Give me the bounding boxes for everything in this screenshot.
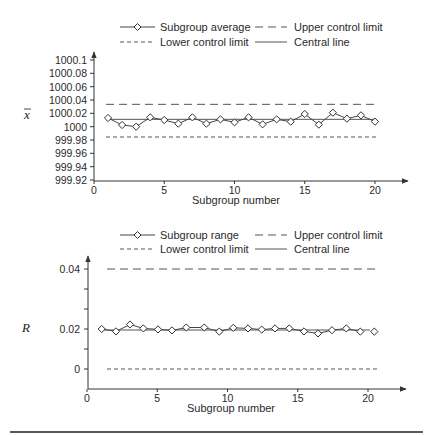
legend-label: Subgroup range [160,229,239,241]
data-point-marker [161,116,168,123]
y-tick-label: 999.94 [55,161,87,173]
data-point-marker [126,321,133,328]
xbar-y-label: x [23,107,31,122]
x-tick-label: 0 [91,184,97,196]
range-plot-area [98,269,378,369]
data-point-marker [175,120,182,127]
data-point-marker [245,114,252,121]
data-point-marker [258,326,265,333]
data-point-marker [273,116,280,123]
xbar-chart: Subgroup average Upper control limit Low… [23,21,408,206]
xbar-plot-area [104,104,379,137]
y-tick-label: 1000.02 [49,107,87,119]
y-tick-label: 0.02 [60,323,81,335]
legend-label: Lower control limit [160,243,249,255]
legend-item-subgroup-range: Subgroup range [120,229,239,241]
y-tick-label: 999.96 [55,147,87,159]
range-y-label: R [21,320,30,335]
y-tick-label: 1000.04 [49,94,87,106]
data-point-marker [168,327,175,334]
data-point-marker [133,123,140,130]
data-point-marker [189,114,196,121]
legend-item-central-line: Central line [255,243,350,255]
x-tick-label: 20 [369,184,381,196]
y-tick-label: 999.98 [55,134,87,146]
legend-label: Upper control limit [294,21,383,33]
data-point-marker [119,121,126,128]
x-tick-label: 20 [362,392,374,404]
legend-label: Upper control limit [294,229,383,241]
x-tick-label: 5 [154,392,160,404]
y-tick-label: 1000.1 [55,54,87,66]
x-tick-label: 15 [299,184,311,196]
y-tick-label: 1000.08 [49,67,87,79]
y-tick-label: 1000.06 [49,81,87,93]
diamond-marker-icon [134,24,141,31]
legend-item-lcl: Lower control limit [120,243,249,255]
legend-label: Subgroup average [160,21,251,33]
legend-item-ucl: Upper control limit [255,21,383,33]
x-tick-label: 15 [292,392,304,404]
x-tick-label: 5 [161,184,167,196]
data-point-marker [147,114,154,121]
data-point-marker [203,120,210,127]
data-point-marker [216,328,223,335]
data-point-marker [357,328,364,335]
legend-label: Central line [294,243,350,255]
x-tick-label: 0 [84,392,90,404]
data-point-marker [98,325,105,332]
data-point-marker [140,325,147,332]
legend-label: Central line [294,36,350,48]
y-tick-label: 1000 [64,121,88,133]
data-point-marker [286,325,293,332]
data-point-marker [154,326,161,333]
y-tick-label: 0 [74,363,80,375]
data-point-marker [357,112,364,119]
data-point-marker [104,114,111,121]
range-y-ticks: 0.040.020 [60,263,88,375]
y-tick-label: 999.92 [55,174,87,186]
range-legend: Subgroup range Upper control limit Lower… [120,229,383,255]
xbar-legend: Subgroup average Upper control limit Low… [120,21,383,48]
legend-item-central-line: Central line [255,36,350,48]
xbar-y-ticks: 1000.11000.081000.061000.041000.02100099… [49,54,94,186]
range-chart: Subgroup range Upper control limit Lower… [21,229,406,414]
xbar-x-axis-title: Subgroup number [192,194,280,206]
legend-item-lcl: Lower control limit [120,36,249,48]
diamond-marker-icon [134,232,141,239]
legend-item-ucl: Upper control limit [255,229,383,241]
legend-item-subgroup-average: Subgroup average [120,21,251,33]
data-point-marker [244,325,251,332]
data-point-marker [112,328,119,335]
data-point-marker [328,327,335,334]
data-point-marker [300,328,307,335]
data-point-marker [271,325,278,332]
data-point-marker [371,328,378,335]
y-tick-label: 0.04 [60,263,81,275]
svg-text:x: x [23,107,30,122]
legend-label: Lower control limit [160,36,249,48]
data-point-marker [259,121,266,128]
data-point-marker [314,330,321,337]
data-point-marker [343,115,350,122]
data-point-marker [343,325,350,332]
range-x-axis-title: Subgroup number [187,402,275,414]
data-point-marker [217,116,224,123]
control-charts-figure: Subgroup average Upper control limit Low… [0,0,434,435]
